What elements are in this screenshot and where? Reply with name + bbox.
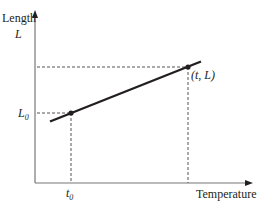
length-temperature-diagram: Length L L0 t0 (t, L) Temperature t xyxy=(0,0,259,209)
point-initial xyxy=(68,110,73,115)
point-final-label: (t, L) xyxy=(191,69,215,81)
point-final xyxy=(185,64,190,69)
t0-label: t0 xyxy=(66,187,73,202)
x-axis-arrow-icon xyxy=(245,180,253,186)
y-axis-label: Length xyxy=(2,12,36,24)
y-axis-symbol: L xyxy=(15,28,22,40)
L0-label: L0 xyxy=(18,107,29,122)
L0-main: L xyxy=(18,106,25,120)
L0-sub: 0 xyxy=(25,113,29,122)
t0-sub: 0 xyxy=(69,193,73,202)
x-axis-label: Temperature xyxy=(196,187,256,201)
diagram-graphics xyxy=(0,0,259,209)
x-axis-label-group: Temperature t xyxy=(196,188,259,200)
